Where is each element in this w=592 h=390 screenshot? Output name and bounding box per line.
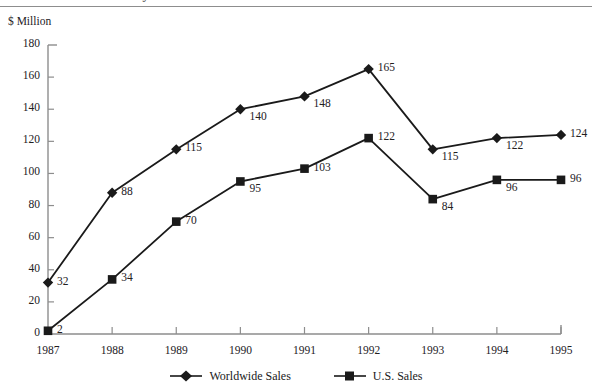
- legend-item-worldwide-sales[interactable]: Worldwide Sales: [169, 369, 290, 384]
- square-marker-icon: [333, 370, 367, 382]
- chart-page: … … … …ectivity $ Million 02040608010012…: [0, 0, 592, 390]
- data-point-marker[interactable]: [299, 91, 309, 101]
- y-axis-tick-label: 0: [10, 326, 40, 338]
- x-axis-tick-label: 1993: [405, 344, 461, 356]
- data-point-label: 84: [442, 200, 454, 212]
- diamond-marker-icon: [169, 370, 203, 382]
- legend-item-us-sales[interactable]: U.S. Sales: [333, 369, 423, 384]
- data-point-label: 115: [442, 150, 459, 162]
- data-point-label: 122: [378, 130, 395, 142]
- data-point-marker[interactable]: [300, 164, 309, 173]
- data-point-label: 103: [314, 161, 331, 173]
- data-point-marker[interactable]: [171, 144, 181, 154]
- y-axis-tick-label: 180: [10, 37, 40, 49]
- line-chart-plot: [0, 0, 592, 390]
- data-point-label: 140: [249, 110, 266, 122]
- data-point-label: 165: [378, 61, 395, 73]
- data-point-marker[interactable]: [172, 217, 181, 226]
- x-axis-tick-label: 1989: [148, 344, 204, 356]
- data-point-marker[interactable]: [236, 177, 245, 186]
- y-axis-tick-label: 20: [10, 294, 40, 306]
- y-axis-tick-label: 140: [10, 101, 40, 113]
- y-axis-tick-label: 160: [10, 69, 40, 81]
- x-axis-tick-label: 1988: [84, 344, 140, 356]
- data-point-label: 95: [249, 182, 261, 194]
- x-axis-tick-label: 1990: [212, 344, 268, 356]
- data-point-label: 96: [570, 172, 582, 184]
- y-axis-tick-label: 40: [10, 262, 40, 274]
- data-point-marker[interactable]: [428, 195, 437, 204]
- data-point-marker[interactable]: [108, 275, 117, 284]
- chart-legend: Worldwide Sales U.S. Sales: [0, 366, 592, 386]
- data-point-marker[interactable]: [44, 326, 53, 335]
- x-axis-tick-label: 1994: [469, 344, 525, 356]
- x-axis-tick-label: 1991: [277, 344, 333, 356]
- data-point-label: 115: [185, 141, 202, 153]
- data-point-marker[interactable]: [493, 176, 502, 185]
- data-point-marker[interactable]: [557, 176, 566, 185]
- x-axis-tick-label: 1995: [533, 344, 589, 356]
- y-axis-tick-label: 120: [10, 133, 40, 145]
- legend-label-us-sales: U.S. Sales: [373, 369, 423, 384]
- data-point-marker[interactable]: [492, 133, 502, 143]
- data-point-label: 124: [570, 127, 587, 139]
- data-point-marker[interactable]: [235, 104, 245, 114]
- data-point-label: 148: [314, 97, 331, 109]
- data-point-label: 2: [57, 323, 63, 335]
- y-axis-tick-label: 100: [10, 165, 40, 177]
- x-axis-tick-label: 1992: [341, 344, 397, 356]
- data-point-label: 34: [121, 271, 133, 283]
- data-point-marker[interactable]: [556, 130, 566, 140]
- data-point-marker[interactable]: [364, 134, 373, 143]
- y-axis-tick-label: 60: [10, 230, 40, 242]
- legend-label-worldwide-sales: Worldwide Sales: [209, 369, 290, 384]
- x-axis-tick-label: 1987: [20, 344, 76, 356]
- data-point-label: 70: [185, 214, 197, 226]
- y-axis-tick-label: 80: [10, 198, 40, 210]
- data-point-label: 32: [57, 275, 69, 287]
- data-point-label: 88: [121, 185, 133, 197]
- data-point-label: 122: [506, 139, 523, 151]
- data-point-label: 96: [506, 181, 518, 193]
